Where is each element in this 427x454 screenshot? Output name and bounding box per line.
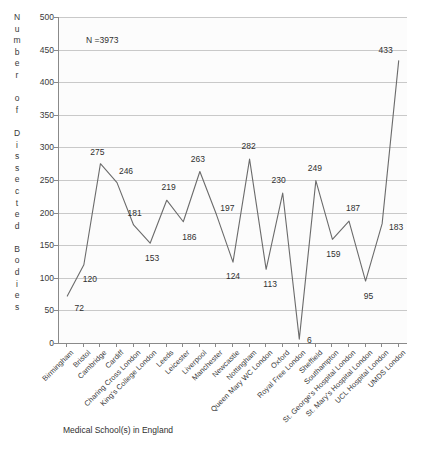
x-axis-tick <box>348 343 349 347</box>
y-axis-tick-label: 100 <box>40 273 54 283</box>
y-axis-title-char: m <box>13 35 20 47</box>
y-axis-title-char: e <box>15 174 20 186</box>
y-axis-title-char: c <box>15 186 19 198</box>
y-axis-title-char: N <box>14 12 20 24</box>
y-axis-title-char: e <box>15 290 20 302</box>
x-axis-tick <box>166 343 167 347</box>
y-axis-tick-label: 150 <box>40 240 54 250</box>
y-axis-tick-label: 450 <box>40 45 54 55</box>
y-axis-title-char: i <box>16 140 18 152</box>
x-axis-tick <box>282 343 283 347</box>
y-axis-tick-label: 350 <box>40 110 54 120</box>
y-axis-tick-label: 250 <box>40 175 54 185</box>
x-axis-tick <box>232 343 233 347</box>
y-axis-tick-label: 400 <box>40 77 54 87</box>
x-axis-tick <box>66 343 67 347</box>
series-line <box>59 17 407 343</box>
x-axis-tick <box>398 343 399 347</box>
y-axis-title-char: d <box>15 267 20 279</box>
y-axis-title-char: f <box>16 105 18 117</box>
y-axis-title-char: D <box>14 128 20 140</box>
y-axis-title-char: e <box>15 209 20 221</box>
y-axis-title-char: r <box>16 70 19 82</box>
x-axis-tick <box>149 343 150 347</box>
x-axis-tick <box>182 343 183 347</box>
x-axis-tick <box>249 343 250 347</box>
y-axis-tick-label: 300 <box>40 142 54 152</box>
y-axis-title-char: b <box>15 47 20 59</box>
y-axis-title-char: s <box>15 302 19 314</box>
y-axis-tick-label: 50 <box>45 305 54 315</box>
x-axis-tick <box>381 343 382 347</box>
line-chart: Number.of.Dissected.Bodies 0501001502002… <box>0 0 427 454</box>
x-axis-category-label: Birmingham <box>41 348 76 383</box>
y-axis-title-char: s <box>15 151 19 163</box>
y-axis-title-char: s <box>15 163 19 175</box>
y-axis-tick-label: 200 <box>40 208 54 218</box>
sample-size-annotation: N =3973 <box>86 35 118 45</box>
x-axis-tick <box>99 343 100 347</box>
x-axis-tick <box>331 343 332 347</box>
y-axis-title-char: d <box>15 221 20 233</box>
x-axis-tick <box>215 343 216 347</box>
x-axis-tick <box>315 343 316 347</box>
x-axis-tick <box>365 343 366 347</box>
y-axis-title: Number.of.Dissected.Bodies <box>9 12 25 342</box>
y-axis-title-char: i <box>16 279 18 291</box>
y-axis-title-char: o <box>15 93 20 105</box>
y-axis-tick-label: 500 <box>40 12 54 22</box>
plot-area: 7212027524618115321918626319712428211323… <box>58 17 407 344</box>
y-axis-title-char: o <box>15 255 20 267</box>
x-axis-tick <box>265 343 266 347</box>
y-axis-title-char: t <box>16 198 18 210</box>
x-axis-tick <box>133 343 134 347</box>
x-axis-tick <box>116 343 117 347</box>
y-axis-title-char: u <box>15 24 20 36</box>
x-axis-title: Medical School(s) in England <box>63 425 173 435</box>
x-axis-tick <box>83 343 84 347</box>
x-axis-tick <box>199 343 200 347</box>
x-axis-tick <box>298 343 299 347</box>
y-axis-title-char: e <box>15 58 20 70</box>
y-axis-title-char: B <box>14 244 20 256</box>
